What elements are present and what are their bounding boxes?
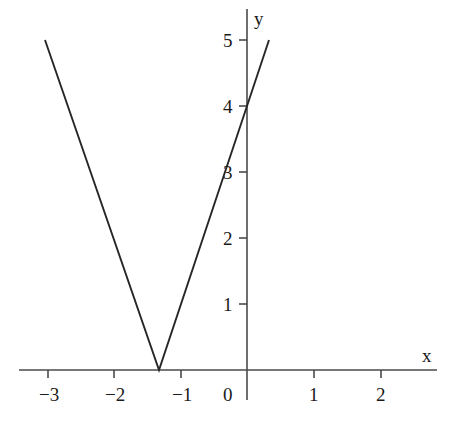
- y-axis-label: y: [254, 9, 264, 28]
- x-tick-label-2: 2: [376, 385, 386, 404]
- x-tick-label-0: 0: [223, 385, 233, 404]
- y-axis-ticks: [239, 40, 247, 304]
- y-tick-label-4: 4: [223, 97, 233, 116]
- x-tick-label-1: 1: [309, 385, 319, 404]
- chart-figure: −3 −2 −1 0 1 2 1 2 3 4 5 y x: [0, 0, 452, 430]
- curve-absolute-value: [45, 40, 269, 370]
- x-tick-label--2: −2: [105, 385, 125, 404]
- y-tick-label-2: 2: [223, 229, 233, 248]
- x-axis-label: x: [422, 346, 432, 365]
- chart-canvas: [0, 0, 452, 430]
- x-axis-ticks: [48, 370, 381, 378]
- y-tick-label-5: 5: [223, 31, 233, 50]
- x-tick-label--1: −1: [172, 385, 192, 404]
- x-tick-label--3: −3: [39, 385, 59, 404]
- y-tick-label-3: 3: [223, 163, 233, 182]
- y-tick-label-1: 1: [223, 295, 233, 314]
